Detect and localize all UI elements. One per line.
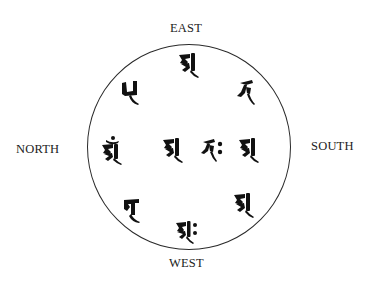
siddham-syllable-icon (118, 195, 144, 225)
mandala-diagram: EAST WEST NORTH SOUTH (0, 0, 372, 291)
siddham-syllable-a-icon (159, 135, 185, 165)
label-west: WEST (169, 256, 204, 271)
label-south: SOUTH (311, 139, 354, 154)
siddham-syllable-a-icon (235, 135, 261, 165)
siddham-syllable-ah-icon (174, 217, 200, 247)
siddham-syllable-icon (232, 77, 258, 107)
siddham-syllable-a-icon (175, 50, 201, 80)
siddham-syllable-ah-icon (198, 135, 224, 165)
siddham-syllable-am-icon (98, 135, 124, 165)
siddham-syllable-a-icon (230, 190, 256, 220)
label-north: NORTH (16, 142, 59, 157)
label-east: EAST (170, 21, 202, 36)
siddham-syllable-icon (116, 77, 142, 107)
